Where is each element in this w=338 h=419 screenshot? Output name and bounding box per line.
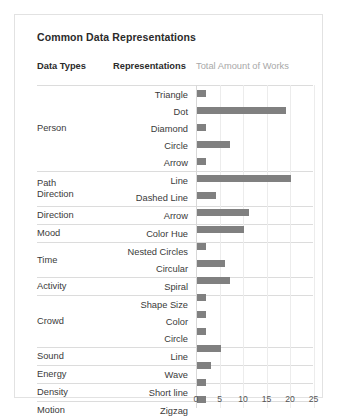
bar [197,277,230,284]
column-header-total-amount-of-works: Total Amount of Works [196,61,289,71]
representation-label: Dashed Line [37,193,188,203]
representation-label: Circle [37,141,188,151]
bar [197,158,206,165]
representation-label: Nested Circles [37,247,188,257]
page-title: Common Data Representations [37,31,196,43]
representation-label: Circular [37,264,188,274]
representation-label: Shape Size [37,300,188,310]
gridline [243,85,244,408]
representation-label: Line [37,176,188,186]
gridline [290,85,291,408]
bar-chart-plot-area [196,85,323,419]
representation-label: Short line [37,388,188,398]
representation-label: Wave [37,370,188,380]
representation-label: Color [37,317,188,327]
bar [197,294,206,301]
x-axis-tick-label: 25 [304,394,324,404]
x-axis-tick-label: 0 [186,394,206,404]
representation-label: Line [37,352,188,362]
bar [197,226,244,233]
representation-label: Spiral [37,282,188,292]
bar [197,260,225,267]
bar [197,311,206,318]
bar [197,243,206,250]
bar [197,379,206,386]
representation-label: Triangle [37,90,188,100]
representation-label: Circle [37,334,188,344]
representations-table: Data Types Representations Total Amount … [37,61,313,419]
gridline [314,85,315,408]
representation-label: Diamond [37,124,188,134]
x-axis-tick-label: 15 [257,394,277,404]
column-header-representations: Representations [113,61,186,71]
column-header-data-types: Data Types [37,61,86,71]
table-body: PersonTriangleDotDiamondCircleArrowPathD… [37,85,313,419]
bar [197,141,230,148]
bar [197,328,206,335]
representation-label: Dot [37,107,188,117]
x-axis-tick-label: 10 [233,394,253,404]
representation-label: Arrow [37,158,188,168]
gridline [267,85,268,408]
bar [197,345,221,352]
bar [197,192,216,199]
bar [197,107,286,114]
representation-label: Zigzag [37,406,188,416]
representation-label: Arrow [37,211,188,221]
bar [197,90,206,97]
bar [197,175,291,182]
chart-card: Common Data Representations Data Types R… [14,14,323,398]
x-axis-tick-label: 20 [280,394,300,404]
bar [197,209,249,216]
x-axis-tick-label: 5 [210,394,230,404]
representation-label: Color Hue [37,229,188,239]
bar [197,362,211,369]
gridline [220,85,221,408]
bar [197,124,206,131]
table-header-row: Data Types Representations Total Amount … [37,61,313,80]
